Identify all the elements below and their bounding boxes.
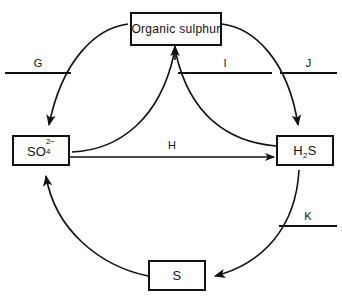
process-rule-j [280,72,337,74]
process-label-g: G [5,58,71,69]
edge-sulphate-to-organic [72,54,174,152]
node-sulphate-charge: 2−4 [46,143,55,156]
node-h2s-base: H [293,143,303,158]
process-label-k: K [279,211,337,222]
process-label-j: J [280,58,337,69]
node-organic-sulphur: Organic sulphur [130,12,222,46]
node-hydrogen-sulphide-label: H2S [293,144,316,157]
edge-sulphur-to-sulphate [46,176,148,276]
edge-h2s-to-sulphur [215,170,299,276]
process-rule-k [279,225,337,227]
node-elemental-sulphur: S [148,260,206,291]
sulphur-cycle-diagram: Organic sulphur SO2−4 H2S S G I J K H [0,0,342,297]
node-hydrogen-sulphide: H2S [276,135,334,166]
node-sulphate-subscript: 4 [46,148,50,156]
node-h2s-subscript: 2 [303,151,308,160]
process-rule-i [178,72,272,74]
node-sulphate-label: SO2−4 [27,143,55,158]
node-organic-sulphur-label: Organic sulphur [131,23,220,35]
process-label-h: H [168,140,176,151]
process-label-i: I [178,58,272,69]
node-sulphate-superscript: 2− [46,138,55,146]
edge-organic-to-h2s [222,24,298,125]
node-sulphate: SO2−4 [12,135,70,166]
process-rule-g [5,72,71,74]
node-h2s-tail: S [308,143,317,158]
edge-organic-to-sulphate [49,24,128,125]
node-sulphate-base: SO [27,144,46,159]
node-elemental-sulphur-label: S [173,269,182,282]
